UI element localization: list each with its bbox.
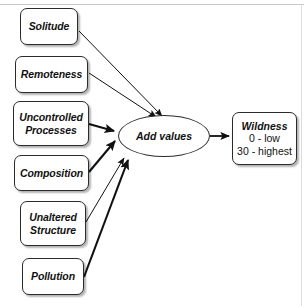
edge-uncontrolled-processes-to-add-values <box>89 124 114 131</box>
node-unaltered-structure-label-line2: Structure <box>30 224 76 236</box>
node-wildness-scale-high: 30 - highest <box>237 145 292 157</box>
node-solitude[interactable]: Solitude <box>20 8 78 45</box>
node-pollution[interactable]: Pollution <box>22 258 84 295</box>
node-composition[interactable]: Composition <box>14 155 89 191</box>
node-composition-label: Composition <box>20 167 83 179</box>
node-uncontrolled-processes[interactable]: Uncontrolled Processes <box>13 101 89 146</box>
node-uncontrolled-processes-label-line2: Processes <box>25 124 77 136</box>
node-wildness-scale-low: 0 - low <box>249 132 280 144</box>
node-wildness-title: Wildness <box>242 120 288 132</box>
node-add-values-label: Add values <box>136 130 192 142</box>
top-rule <box>0 4 304 5</box>
edge-solitude-to-add-values <box>79 31 162 116</box>
node-remoteness[interactable]: Remoteness <box>15 56 88 93</box>
right-rule <box>301 4 302 306</box>
node-add-values[interactable]: Add values <box>118 115 210 157</box>
node-unaltered-structure[interactable]: Unaltered Structure <box>20 201 86 246</box>
node-unaltered-structure-label-line1: Unaltered <box>29 211 77 223</box>
edge-remoteness-to-add-values <box>89 73 156 117</box>
edge-composition-to-add-values <box>89 141 115 172</box>
node-uncontrolled-processes-label-line1: Uncontrolled <box>19 111 83 123</box>
node-remoteness-label: Remoteness <box>21 68 82 80</box>
diagram-canvas: Solitude Remoteness Uncontrolled Process… <box>0 0 304 306</box>
node-wildness[interactable]: Wildness 0 - low 30 - highest <box>232 112 297 165</box>
node-pollution-label: Pollution <box>31 270 75 282</box>
node-solitude-label: Solitude <box>29 20 70 32</box>
edge-pollution-to-add-values <box>84 160 128 277</box>
